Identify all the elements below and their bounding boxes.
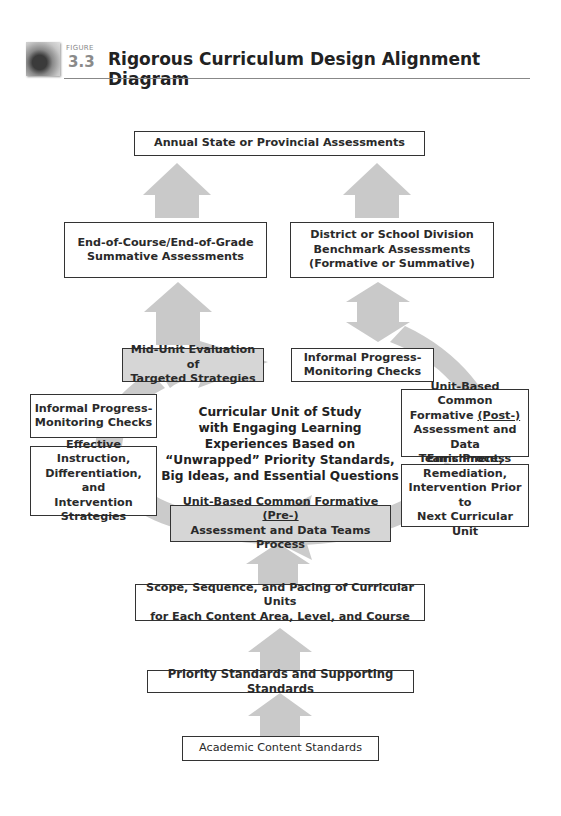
box-label: Unit-Based Common xyxy=(405,380,525,409)
box-label: Effective Instruction, xyxy=(34,438,153,467)
arrow-up-icon xyxy=(248,628,312,670)
center-line: Big Ideas, and Essential Questions xyxy=(160,468,400,484)
box-scope-sequence: Scope, Sequence, and Pacing of Curricula… xyxy=(135,584,425,621)
arrow-up-icon xyxy=(248,693,312,736)
box-label: Enrichment, xyxy=(427,452,503,467)
center-line: Curricular Unit of Study xyxy=(160,404,400,420)
box-post-assessment: Unit-Based Common Formative (Post-) Asse… xyxy=(401,389,529,457)
box-academic-content-standards: Academic Content Standards xyxy=(182,736,379,761)
box-label: Differentiation, and xyxy=(34,467,153,496)
curricular-unit-center-text: Curricular Unit of Study with Engaging L… xyxy=(160,404,400,484)
box-label: Annual State or Provincial Assessments xyxy=(154,136,405,151)
box-district-benchmark: District or School Division Benchmark As… xyxy=(290,222,494,278)
box-label-part: Unit-Based Common Formative xyxy=(183,495,379,508)
box-label: Next Curricular Unit xyxy=(405,510,525,539)
box-annual-assessments: Annual State or Provincial Assessments xyxy=(134,131,425,156)
box-label: (Formative or Summative) xyxy=(309,257,475,272)
box-priority-standards: Priority Standards and Supporting Standa… xyxy=(147,670,414,693)
box-label-part: Formative xyxy=(410,409,478,422)
pre-emphasis: (Pre-) xyxy=(262,509,298,522)
box-label: Assessment and Data Teams Process xyxy=(174,524,387,553)
box-label: Monitoring Checks xyxy=(304,365,421,380)
box-label: Priority Standards and Supporting Standa… xyxy=(151,667,410,696)
box-enrichment-remediation: Enrichment, Remediation, Intervention Pr… xyxy=(401,464,529,527)
arrow-up-icon xyxy=(143,163,211,218)
box-pre-assessment: Unit-Based Common Formative (Pre-) Asses… xyxy=(170,505,391,542)
center-line: Experiences Based on xyxy=(160,436,400,452)
arrow-up-icon xyxy=(343,163,411,218)
box-label: Unit-Based Common Formative (Pre-) xyxy=(174,495,387,524)
center-line: with Engaging Learning xyxy=(160,420,400,436)
post-emphasis: (Post-) xyxy=(477,409,520,422)
box-label: Targeted Strategies xyxy=(130,372,255,387)
box-mid-unit-evaluation: Mid-Unit Evaluation of Targeted Strategi… xyxy=(122,348,264,382)
center-line: “Unwrapped” Priority Standards, xyxy=(160,452,400,468)
box-label: for Each Content Area, Level, and Course xyxy=(150,610,410,625)
box-label: Remediation, xyxy=(423,467,507,482)
box-informal-progress-left: Informal Progress- Monitoring Checks xyxy=(30,394,157,438)
priority-emphasis: Priority Standards xyxy=(168,667,288,681)
box-effective-instruction: Effective Instruction, Differentiation, … xyxy=(30,446,157,516)
box-label: Assessment and Data xyxy=(405,423,525,452)
box-label: Strategies xyxy=(61,510,127,525)
box-label: End-of-Course/End-of-Grade xyxy=(77,236,253,251)
box-informal-progress-top: Informal Progress- Monitoring Checks xyxy=(291,348,434,382)
box-label: Scope, Sequence, and Pacing of Curricula… xyxy=(139,581,421,610)
box-label: Informal Progress- xyxy=(35,402,153,417)
box-label: Intervention xyxy=(54,496,132,511)
box-label: Informal Progress- xyxy=(304,351,422,366)
box-label: Mid-Unit Evaluation of xyxy=(126,343,260,372)
box-label: Monitoring Checks xyxy=(35,416,152,431)
box-label: Benchmark Assessments xyxy=(314,243,471,258)
box-end-of-course: End-of-Course/End-of-Grade Summative Ass… xyxy=(64,222,267,278)
box-label: District or School Division xyxy=(310,228,474,243)
box-label: Intervention Prior to xyxy=(405,481,525,510)
box-label: Formative (Post-) xyxy=(410,409,520,424)
box-label: Summative Assessments xyxy=(87,250,244,265)
arrow-up-icon xyxy=(144,282,212,345)
box-label: Academic Content Standards xyxy=(199,741,362,756)
